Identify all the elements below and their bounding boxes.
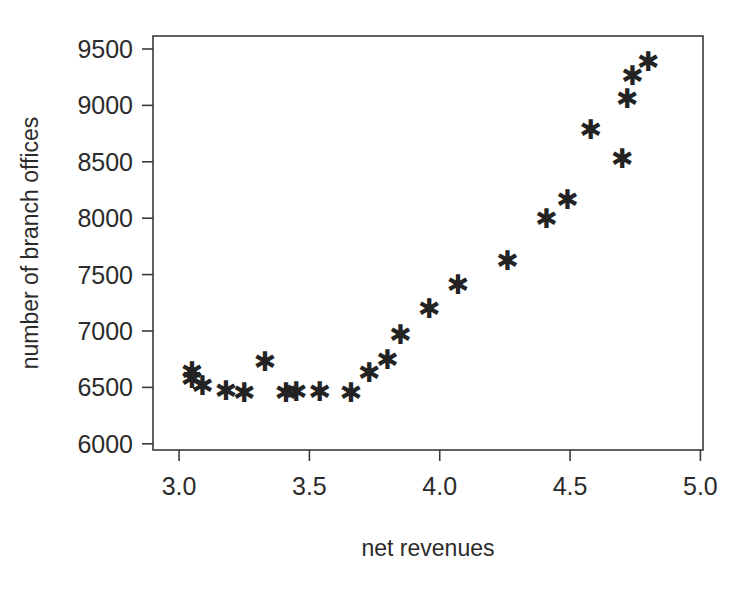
x-tick-label: 4.0 [422, 472, 457, 500]
data-point-marker: ✱ [309, 376, 332, 407]
data-point-marker: ✱ [611, 143, 634, 174]
y-axis-tick-marks [142, 49, 153, 444]
data-point-marker: ✱ [535, 203, 558, 234]
y-tick-label: 9000 [77, 91, 133, 119]
data-point-marker: ✱ [447, 269, 470, 300]
data-point-marker: ✱ [285, 376, 308, 407]
scatter-plot-figure: 60006500700075008000850090009500 3.03.54… [0, 0, 741, 597]
data-point-marker: ✱ [254, 346, 277, 377]
data-point-group: ✱✱✱✱✱✱✱✱✱✱✱✱✱✱✱✱✱✱✱✱✱✱✱ [181, 46, 660, 408]
x-axis-tick-labels: 3.03.54.04.55.0 [162, 472, 718, 500]
data-point-marker: ✱ [580, 114, 603, 145]
plot-canvas: 60006500700075008000850090009500 3.03.54… [0, 0, 741, 597]
y-tick-label: 8000 [77, 204, 133, 232]
x-tick-label: 5.0 [683, 472, 718, 500]
data-point-marker: ✱ [233, 377, 256, 408]
y-tick-label: 7500 [77, 261, 133, 289]
x-tick-label: 4.5 [553, 472, 588, 500]
y-axis-label: number of branch offices [17, 117, 43, 370]
data-point-marker: ✱ [637, 46, 660, 77]
y-tick-label: 6500 [77, 373, 133, 401]
x-tick-label: 3.5 [292, 472, 327, 500]
y-tick-label: 6000 [77, 430, 133, 458]
data-point-marker: ✱ [389, 319, 412, 350]
data-point-marker: ✱ [418, 293, 441, 324]
y-tick-label: 8500 [77, 148, 133, 176]
y-tick-label: 7000 [77, 317, 133, 345]
x-axis-label: net revenues [362, 535, 495, 561]
x-tick-label: 3.0 [162, 472, 197, 500]
data-point-marker: ✱ [496, 245, 519, 276]
y-tick-label: 9500 [77, 35, 133, 63]
data-point-marker: ✱ [556, 184, 579, 215]
x-axis-tick-marks [179, 450, 700, 461]
y-axis-tick-labels: 60006500700075008000850090009500 [77, 35, 133, 458]
data-point-marker: ✱ [191, 370, 214, 401]
